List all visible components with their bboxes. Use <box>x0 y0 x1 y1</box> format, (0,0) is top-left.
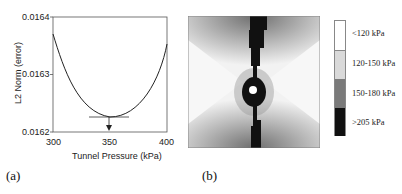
legend-label: <120 kPa <box>352 28 384 38</box>
x-tick-label: 400 <box>159 137 174 147</box>
legend-swatch-120-150 <box>335 51 345 79</box>
legend-label: 150-180 kPa <box>352 88 395 98</box>
x-axis-title: Tunnel Pressure (kPa) <box>72 151 162 161</box>
legend-swatch-gt205 <box>335 108 345 136</box>
legend-color-bar <box>334 20 346 136</box>
arrow-down-icon <box>106 125 112 131</box>
chart-a: 0.0164 0.0163 0.0162 L2 Norm (error) 300… <box>0 0 185 194</box>
error-curve <box>53 34 167 117</box>
tunnel-hole <box>249 86 257 94</box>
legend-swatch-150-180 <box>335 79 345 108</box>
x-tick-label: 350 <box>102 137 117 147</box>
pressure-heatmap <box>185 0 330 160</box>
legend-label: >205 kPa <box>352 117 384 127</box>
x-tick-label: 300 <box>46 137 61 147</box>
legend-label: 120-150 kPa <box>352 58 395 68</box>
chart-b: <120 kPa 120-150 kPa 150-180 kPa >205 kP… <box>185 0 402 194</box>
panel-label-b: (b) <box>202 168 217 184</box>
plot-area <box>0 0 185 194</box>
legend-swatch-lt120 <box>335 21 345 51</box>
panel-label-a: (a) <box>6 168 20 184</box>
